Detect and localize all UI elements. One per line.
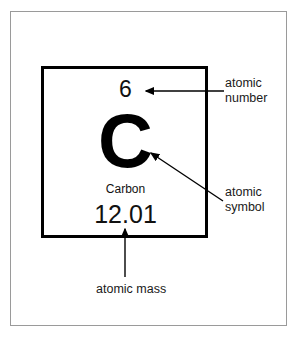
element-name-value: Carbon — [44, 182, 205, 196]
element-cell: 6 C Carbon 12.01 — [41, 66, 208, 238]
annotation-label-atomic-mass: atomic mass — [96, 282, 166, 297]
element-anatomy-diagram: 6 C Carbon 12.01 atomic number atomic sy… — [0, 0, 301, 343]
atomic-symbol-value: C — [44, 102, 205, 180]
annotation-label-atomic-symbol: atomic symbol — [225, 185, 265, 214]
atomic-mass-value: 12.01 — [44, 200, 205, 228]
element-cell-contents: 6 C Carbon 12.01 — [44, 69, 205, 235]
annotation-label-atomic-number: atomic number — [225, 76, 267, 105]
